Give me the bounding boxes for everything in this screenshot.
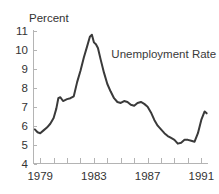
y-axis-title: Percent bbox=[29, 12, 69, 24]
x-tick-label-1979: 1979 bbox=[27, 170, 53, 182]
y-axis-tick-labels: 4567891011 bbox=[15, 25, 28, 170]
x-axis-tick-labels: 1979198319871991 bbox=[27, 170, 214, 182]
y-tick-label-10: 10 bbox=[15, 44, 28, 56]
x-axis-tick-marks bbox=[41, 158, 202, 164]
y-tick-label-4: 4 bbox=[22, 158, 29, 170]
y-tick-label-7: 7 bbox=[22, 101, 28, 113]
y-axis-tick-marks bbox=[34, 32, 38, 165]
x-tick-label-1983: 1983 bbox=[81, 170, 107, 182]
y-tick-label-9: 9 bbox=[22, 63, 28, 75]
x-tick-label-1987: 1987 bbox=[135, 170, 161, 182]
y-tick-label-8: 8 bbox=[22, 82, 28, 94]
y-tick-label-6: 6 bbox=[22, 120, 28, 132]
chart-canvas: Percent 4567891011 1979198319871991 Unem… bbox=[0, 0, 219, 194]
x-tick-label-1991: 1991 bbox=[188, 170, 214, 182]
series-annotation-0: Unemployment Rate bbox=[111, 48, 216, 60]
y-tick-label-11: 11 bbox=[16, 25, 28, 37]
unemployment-rate-chart: Percent 4567891011 1979198319871991 Unem… bbox=[0, 0, 219, 194]
y-tick-label-5: 5 bbox=[22, 139, 28, 151]
chart-annotations: Unemployment Rate bbox=[111, 48, 216, 60]
